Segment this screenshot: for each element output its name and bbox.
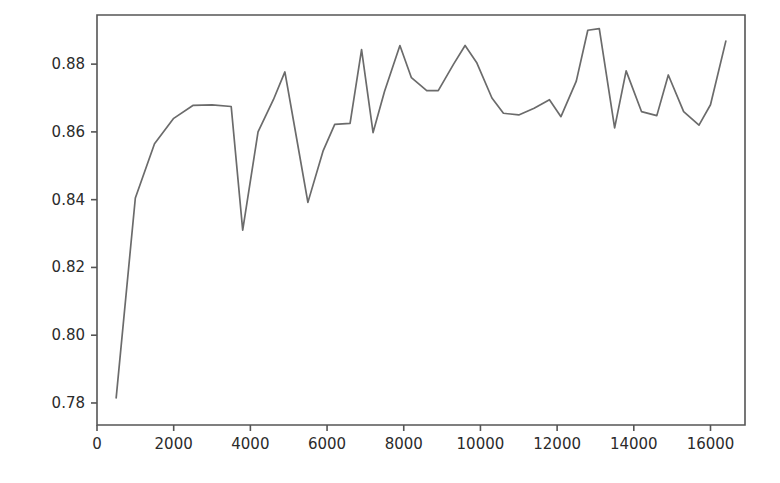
x-tick-label: 16000 (687, 435, 735, 453)
x-tick-label: 4000 (231, 435, 269, 453)
y-tick-label: 0.84 (52, 191, 85, 209)
line-chart-canvas: 0200040006000800010000120001400016000 0.… (0, 0, 780, 483)
x-tick-label: 12000 (533, 435, 581, 453)
x-tick-label: 8000 (385, 435, 423, 453)
x-tick-label: 10000 (457, 435, 505, 453)
x-tick-label: 14000 (610, 435, 658, 453)
y-tick-label: 0.82 (52, 258, 85, 276)
y-tick-label: 0.80 (52, 326, 85, 344)
y-tick-label: 0.86 (52, 123, 85, 141)
chart-figure: 0200040006000800010000120001400016000 0.… (0, 0, 780, 483)
y-tick-label: 0.78 (52, 394, 85, 412)
y-tick-label: 0.88 (52, 55, 85, 73)
x-tick-label: 2000 (155, 435, 193, 453)
x-axis-tick-labels: 0200040006000800010000120001400016000 (92, 435, 734, 453)
x-tick-label: 0 (92, 435, 102, 453)
x-tick-label: 6000 (308, 435, 346, 453)
